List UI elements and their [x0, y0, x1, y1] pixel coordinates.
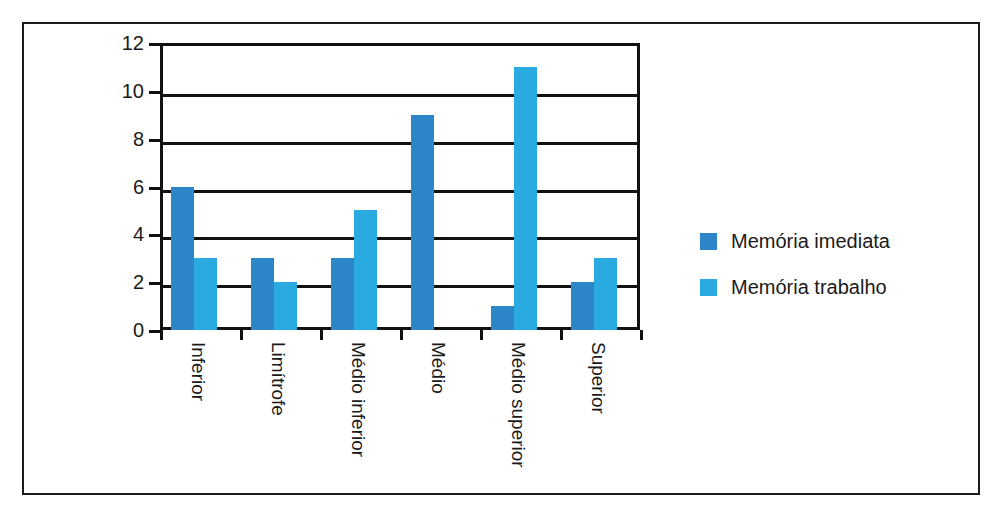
x-tick-mark — [560, 330, 563, 340]
x-category-label: Médio — [429, 342, 448, 394]
legend-swatch-icon — [700, 279, 717, 296]
y-tick-label-0: 0 — [100, 320, 144, 340]
chart-legend: Memória imediataMemória trabalho — [700, 228, 890, 320]
bar[interactable] — [331, 258, 354, 330]
x-tick-mark — [400, 330, 403, 340]
y-tick-label-2: 2 — [100, 272, 144, 292]
legend-item[interactable]: Memória trabalho — [700, 274, 890, 300]
legend-label: Memória imediata — [731, 231, 890, 251]
x-tick-mark — [640, 330, 643, 340]
legend-label: Memória trabalho — [731, 277, 887, 297]
bar-group — [240, 43, 320, 330]
bar-group — [560, 43, 640, 330]
x-tick-mark — [480, 330, 483, 340]
y-tick-label-8: 8 — [100, 129, 144, 149]
y-tick-mark-2 — [149, 282, 160, 285]
x-category-label: Médio superior — [509, 342, 528, 468]
legend-swatch-icon — [700, 233, 717, 250]
x-category-label: Limítrofe — [269, 342, 288, 416]
bar[interactable] — [171, 187, 194, 331]
x-category-label: Médio inferior — [349, 342, 368, 457]
bars-layer — [160, 43, 640, 330]
y-tick-mark-4 — [149, 234, 160, 237]
y-tick-label-10: 10 — [100, 81, 144, 101]
legend-item[interactable]: Memória imediata — [700, 228, 890, 254]
bar[interactable] — [194, 258, 217, 330]
y-axis-tick-labels: 024681012 — [100, 43, 144, 330]
y-tick-label-12: 12 — [100, 33, 144, 53]
chart-figure: 024681012 InferiorLimítrofeMédio inferio… — [0, 0, 1000, 512]
bar-group — [160, 43, 240, 330]
x-tick-mark — [320, 330, 323, 340]
bar[interactable] — [594, 258, 617, 330]
x-category-label: Superior — [589, 342, 608, 414]
bar[interactable] — [411, 115, 434, 330]
y-tick-label-6: 6 — [100, 177, 144, 197]
y-tick-mark-0 — [149, 330, 160, 333]
bar[interactable] — [354, 210, 377, 330]
bar[interactable] — [571, 282, 594, 330]
y-tick-mark-12 — [149, 43, 160, 46]
bar-group — [320, 43, 400, 330]
x-category-label: Inferior — [189, 342, 208, 401]
y-tick-mark-10 — [149, 91, 160, 94]
bar[interactable] — [491, 306, 514, 330]
bar-group — [480, 43, 560, 330]
bar-group — [400, 43, 480, 330]
x-tick-mark — [240, 330, 243, 340]
y-tick-mark-8 — [149, 139, 160, 142]
bar[interactable] — [251, 258, 274, 330]
bar[interactable] — [514, 67, 537, 330]
x-axis-tick-marks — [160, 330, 640, 342]
x-axis-category-labels: InferiorLimítrofeMédio inferiorMédioMédi… — [160, 342, 640, 482]
x-tick-mark — [160, 330, 163, 340]
bar[interactable] — [274, 282, 297, 330]
y-tick-label-4: 4 — [100, 224, 144, 244]
y-tick-mark-6 — [149, 187, 160, 190]
